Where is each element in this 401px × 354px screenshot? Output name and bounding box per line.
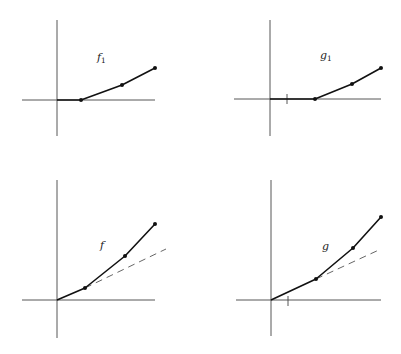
- f1-graph: [57, 68, 155, 100]
- g1-label: g1: [320, 49, 332, 63]
- f-vertex: [123, 254, 127, 258]
- g-vertex: [351, 246, 355, 250]
- panel-g: g: [236, 180, 383, 336]
- panel-f1: f1: [22, 20, 157, 136]
- g1-vertex: [350, 82, 354, 86]
- f-vertex: [153, 222, 157, 226]
- f1-label: f1: [96, 51, 106, 65]
- piecewise-linear-functions-figure: f1 g1 f g: [0, 0, 401, 354]
- g-graph: [271, 217, 381, 300]
- g1-vertex: [313, 97, 317, 101]
- f1-vertex: [153, 66, 157, 70]
- f1-vertex: [120, 83, 124, 87]
- f-vertex: [83, 286, 87, 290]
- g1-vertex: [379, 66, 383, 70]
- f-label: f: [99, 239, 106, 252]
- f1-vertex: [79, 98, 83, 102]
- panel-f: f: [22, 180, 166, 338]
- panel-g1: g1: [234, 20, 383, 136]
- g-dashed-extension: [316, 249, 381, 279]
- f-graph: [57, 224, 155, 300]
- g-label: g: [322, 240, 329, 253]
- g-vertex: [314, 277, 318, 281]
- g-vertex: [379, 215, 383, 219]
